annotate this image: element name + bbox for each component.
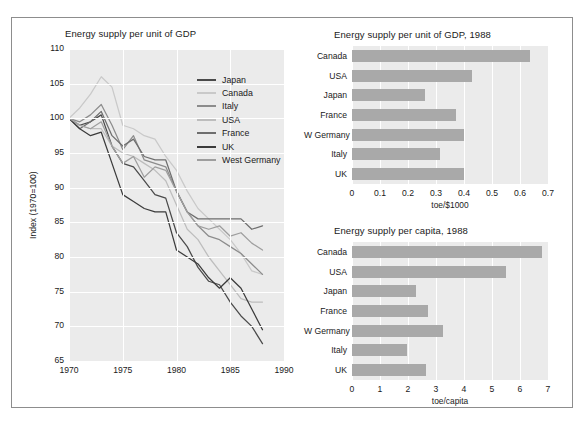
capita-bar-chart-gridline-vertical	[492, 242, 493, 380]
gdp-bar-chart-category-label: UK	[304, 169, 347, 179]
line-chart-x-tick-label: 1980	[165, 365, 189, 375]
capita-bar-chart-x-tick-label: 2	[396, 384, 420, 394]
line-chart-gridline-vertical	[177, 49, 178, 361]
legend-swatch-italy	[197, 105, 216, 107]
capita-bar-chart-x-tick-label: 3	[424, 384, 448, 394]
line-chart-y-tick-label: 95	[40, 147, 64, 157]
line-chart-y-tick-label: 110	[40, 43, 64, 53]
legend-item-france: France	[197, 127, 297, 140]
gdp-bar-chart-panel: Energy supply per unit of GDP, 1988 Cana…	[304, 18, 574, 214]
gdp-bar-chart-gridline-vertical	[464, 46, 465, 184]
capita-bar-chart-category-label: Japan	[304, 286, 347, 296]
capita-bar-chart-x-tick-label: 0	[340, 384, 364, 394]
gdp-bar-chart-x-tick-label: 0.6	[508, 188, 532, 198]
capita-bar-chart-category-label: W Germany	[304, 326, 347, 336]
line-chart-y-axis-label: Index (1970=100)	[28, 171, 38, 239]
legend-item-west-germany: West Germany	[197, 153, 297, 166]
line-chart-gridline-vertical	[69, 49, 70, 361]
capita-bar-chart-x-tick-label: 5	[480, 384, 504, 394]
legend-label: UK	[222, 142, 234, 152]
legend-label: France	[222, 128, 249, 138]
gdp-bar-chart-x-tick-label: 0	[340, 188, 364, 198]
capita-bar-chart-panel: Energy supply per capita, 1988 CanadaUSA…	[304, 214, 574, 409]
gdp-bar-chart-gridline-vertical	[520, 46, 521, 184]
legend-item-japan: Japan	[197, 73, 297, 86]
line-chart-y-tick-label: 65	[40, 355, 64, 365]
line-chart-gridline-horizontal	[69, 326, 284, 327]
gdp-bar-chart-title: Energy supply per unit of GDP, 1988	[334, 29, 491, 40]
capita-bar-chart-gridline-vertical	[520, 242, 521, 380]
legend-label: Japan	[222, 75, 246, 85]
line-chart-x-tick-label: 1990	[272, 365, 296, 375]
figure-frame: Energy supply per unit of GDP 6570758085…	[11, 17, 573, 408]
bar-w-germany	[352, 129, 464, 141]
legend-item-italy: Italy	[197, 100, 297, 113]
legend-item-canada: Canada	[197, 86, 297, 99]
bar-usa	[352, 266, 506, 278]
legend-item-usa: USA	[197, 113, 297, 126]
legend-item-uk: UK	[197, 140, 297, 153]
capita-bar-chart-plot-area	[352, 242, 548, 380]
capita-bar-chart-x-tick-label: 4	[452, 384, 476, 394]
legend-swatch-japan	[197, 79, 216, 81]
bar-japan	[352, 285, 416, 297]
legend-swatch-canada	[197, 92, 216, 94]
legend-swatch-west-germany	[197, 159, 216, 161]
legend-swatch-france	[197, 132, 216, 134]
line-chart-y-tick-label: 75	[40, 286, 64, 296]
legend-label: West Germany	[222, 155, 281, 165]
gdp-bar-chart-x-axis-label: toe/$1000	[422, 200, 478, 210]
line-chart-title: Energy supply per unit of GDP	[65, 28, 196, 39]
line-chart-x-tick-label: 1985	[218, 365, 242, 375]
line-chart-panel: Energy supply per unit of GDP 6570758085…	[12, 18, 304, 409]
line-chart-gridline-horizontal	[69, 222, 284, 223]
gdp-bar-chart-category-label: France	[304, 110, 347, 120]
line-chart-x-tick-label: 1975	[111, 365, 135, 375]
capita-bar-chart-category-label: USA	[304, 267, 347, 277]
gdp-bar-chart-plot-area	[352, 46, 548, 184]
line-chart-y-tick-label: 85	[40, 216, 64, 226]
line-chart-y-tick-label: 100	[40, 112, 64, 122]
capita-bar-chart-category-label: Italy	[304, 345, 347, 355]
line-chart-legend: JapanCanadaItalyUSAFranceUKWest Germany	[197, 73, 297, 167]
line-chart-y-tick-label: 70	[40, 320, 64, 330]
gdp-bar-chart-category-label: Canada	[304, 51, 347, 61]
line-chart-gridline-horizontal	[69, 188, 284, 189]
bar-italy	[352, 148, 440, 160]
bar-france	[352, 305, 428, 317]
capita-bar-chart-title: Energy supply per capita, 1988	[334, 225, 468, 236]
capita-bar-chart-category-label: UK	[304, 365, 347, 375]
gdp-bar-chart-x-tick-label: 0.4	[452, 188, 476, 198]
capita-bar-chart-gridline-vertical	[436, 242, 437, 380]
gdp-bar-chart-x-tick-label: 0.2	[396, 188, 420, 198]
gdp-bar-chart-x-tick-label: 0.7	[536, 188, 560, 198]
gdp-bar-chart-x-tick-label: 0.1	[368, 188, 392, 198]
line-chart-gridline-vertical	[123, 49, 124, 361]
line-chart-x-tick-label: 1970	[57, 365, 81, 375]
line-chart-gridline-horizontal	[69, 257, 284, 258]
bar-usa	[352, 70, 472, 82]
bar-canada	[352, 246, 542, 258]
gdp-bar-chart-category-label: USA	[304, 71, 347, 81]
legend-swatch-uk	[197, 146, 216, 148]
gdp-bar-chart-gridline-vertical	[492, 46, 493, 184]
gdp-bar-chart-category-label: W Germany	[304, 130, 347, 140]
bar-uk	[352, 168, 464, 180]
gdp-bar-chart-category-label: Japan	[304, 90, 347, 100]
capita-bar-chart-x-tick-label: 7	[536, 384, 560, 394]
line-chart-y-tick-label: 80	[40, 251, 64, 261]
bar-france	[352, 109, 456, 121]
legend-label: USA	[222, 115, 240, 125]
line-chart-gridline-horizontal	[69, 49, 284, 50]
gdp-bar-chart-x-tick-label: 0.3	[424, 188, 448, 198]
line-chart-y-tick-label: 105	[40, 78, 64, 88]
gdp-bar-chart-x-tick-label: 0.5	[480, 188, 504, 198]
line-chart-gridline-horizontal	[69, 292, 284, 293]
line-chart-y-tick-label: 90	[40, 182, 64, 192]
capita-bar-chart-category-label: Canada	[304, 247, 347, 257]
bar-italy	[352, 344, 407, 356]
bar-japan	[352, 89, 425, 101]
capita-bar-chart-x-axis-label: toe/capita	[422, 396, 478, 406]
bar-canada	[352, 50, 530, 62]
capita-bar-chart-gridline-vertical	[464, 242, 465, 380]
